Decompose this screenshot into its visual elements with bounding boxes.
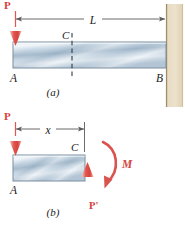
label-P-a: P [4,0,11,11]
label-B-a: B [156,72,163,84]
label-A-b: A [9,184,18,196]
label-C-b: C [71,141,79,153]
label-M: M [121,158,133,170]
label-A-a: A [9,72,18,84]
beam-b [13,155,85,181]
label-C-a: C [62,29,70,41]
mechanics-figure: L P C A B (a) [0,0,185,225]
caption-b: (b) [47,206,60,219]
fixed-wall-support [166,4,183,107]
force-arrow-P-a [10,6,22,46]
caption-a: (a) [47,86,60,99]
beam-a [13,42,166,68]
label-P-b: P [4,110,11,122]
label-L: L [89,14,96,26]
panel-a: L P C A B (a) [4,0,183,107]
figure-svg: L P C A B (a) [0,0,185,225]
moment-arrow-M [103,142,116,189]
panel-b: x P C A P' M (b) [4,110,133,219]
force-arrow-P-b [10,118,22,156]
label-x: x [44,124,51,136]
label-P-prime: P' [89,200,98,211]
